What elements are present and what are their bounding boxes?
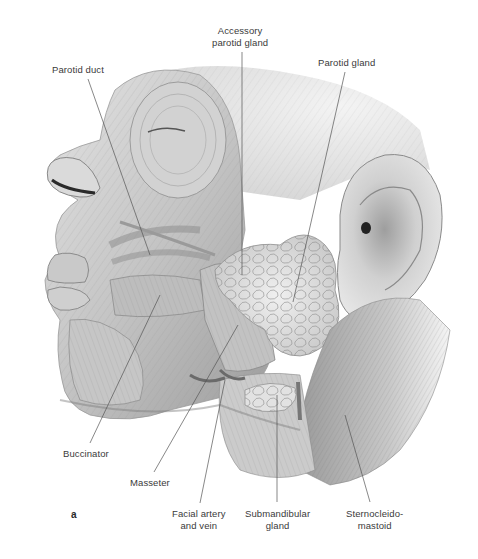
orbicularis-oculi bbox=[130, 82, 226, 198]
label-facial-artery-and-vein: Facial artery and vein bbox=[172, 508, 226, 532]
label-parotid-duct: Parotid duct bbox=[52, 64, 104, 76]
label-line: Masseter bbox=[130, 477, 170, 489]
label-line: Buccinator bbox=[63, 448, 109, 460]
label-line: Parotid gland bbox=[318, 57, 375, 69]
label-parotid-gland: Parotid gland bbox=[318, 57, 375, 69]
label-line: Parotid duct bbox=[52, 64, 104, 76]
label-line: Submandibular bbox=[245, 508, 310, 520]
upper-lip bbox=[47, 253, 88, 283]
label-line: Accessory bbox=[212, 25, 268, 37]
label-buccinator: Buccinator bbox=[63, 448, 109, 460]
panel-letter: a bbox=[71, 509, 77, 520]
anatomy-figure: Parotid duct Accessory parotid gland Par… bbox=[0, 0, 478, 559]
label-line: mastoid bbox=[346, 520, 403, 532]
label-accessory-parotid-gland: Accessory parotid gland bbox=[212, 25, 268, 49]
ear-canal bbox=[361, 222, 371, 234]
label-masseter: Masseter bbox=[130, 477, 170, 489]
label-submandibular-gland: Submandibular gland bbox=[245, 508, 310, 532]
label-line: Sternocleido- bbox=[346, 508, 403, 520]
label-line: Facial artery bbox=[172, 508, 226, 520]
label-line: and vein bbox=[172, 520, 226, 532]
label-sternocleidomastoid: Sternocleido- mastoid bbox=[346, 508, 403, 532]
face-illustration bbox=[0, 0, 478, 559]
label-line: parotid gland bbox=[212, 37, 268, 49]
ear bbox=[338, 155, 443, 321]
label-line: gland bbox=[245, 520, 310, 532]
